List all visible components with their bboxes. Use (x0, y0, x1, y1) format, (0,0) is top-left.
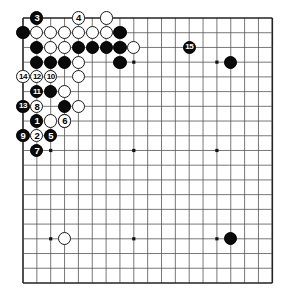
move-stone-2 (30, 129, 43, 142)
black-stone (44, 56, 57, 69)
move-stone-14 (16, 70, 29, 83)
move-stone-1 (30, 114, 43, 127)
move-stone-8 (30, 100, 43, 113)
white-stone (58, 41, 71, 54)
black-stone (86, 41, 99, 54)
white-stone (44, 26, 57, 39)
white-stone (72, 56, 85, 69)
white-stone (86, 26, 99, 39)
move-stone-15 (183, 41, 196, 54)
move-stone-3 (30, 11, 43, 24)
black-stone (58, 100, 71, 113)
white-stone (72, 70, 85, 83)
move-stone-13 (16, 100, 29, 113)
black-stone (113, 56, 126, 69)
white-stone (44, 114, 57, 127)
black-stone (58, 56, 71, 69)
move-stone-12 (30, 70, 43, 83)
move-stone-5 (44, 129, 57, 142)
black-stone (100, 41, 113, 54)
black-stone (44, 85, 57, 98)
white-stone (58, 85, 71, 98)
go-board-diagram: 341412101113816925715 (0, 0, 290, 295)
black-stone (16, 26, 29, 39)
white-stone (100, 11, 113, 24)
white-stone (58, 26, 71, 39)
white-stone (127, 41, 140, 54)
black-stone (30, 41, 43, 54)
white-stone (44, 41, 57, 54)
move-stone-7 (30, 144, 43, 157)
black-stone (113, 41, 126, 54)
white-stone (30, 26, 43, 39)
black-stone (224, 232, 237, 245)
move-stone-11 (30, 85, 43, 98)
black-stone (113, 26, 126, 39)
black-stone (30, 56, 43, 69)
stone-layer: 341412101113816925715 (0, 0, 290, 295)
white-stone (100, 26, 113, 39)
black-stone (224, 56, 237, 69)
black-stone (72, 41, 85, 54)
move-stone-4 (72, 11, 85, 24)
white-stone (72, 100, 85, 113)
move-stone-6 (58, 114, 71, 127)
move-stone-9 (16, 129, 29, 142)
move-stone-10 (44, 70, 57, 83)
white-stone (58, 232, 71, 245)
white-stone (72, 26, 85, 39)
